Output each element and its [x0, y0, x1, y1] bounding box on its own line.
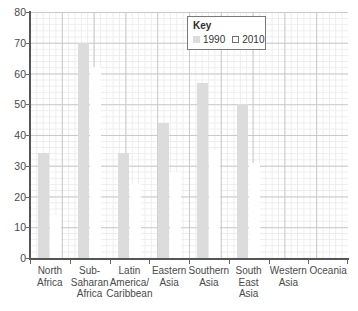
y-axis-tick-mark [26, 104, 30, 105]
x-axis-tick-mark [308, 259, 309, 264]
y-axis-tick-label: 10 [4, 222, 26, 232]
legend: Key 19902010 [187, 16, 266, 50]
x-axis-tick-mark [269, 259, 270, 264]
legend-entry: 1990 [193, 34, 225, 45]
bar-1990 [78, 43, 89, 258]
bar-1990 [197, 83, 208, 258]
bar-group [70, 12, 110, 258]
y-axis-tick-mark [26, 43, 30, 44]
bar-1990 [158, 123, 169, 258]
bar-2010 [50, 215, 61, 258]
y-axis-tick-mark [26, 74, 30, 75]
y-axis-tick-label: 70 [4, 38, 26, 48]
y-axis-tick-mark [26, 258, 30, 259]
y-axis-tick-mark [26, 12, 30, 13]
x-axis-tick-mark [30, 259, 31, 264]
bar-1990 [237, 104, 248, 258]
y-axis-tick-mark [26, 197, 30, 198]
y-axis-tick-label: 60 [4, 69, 26, 79]
legend-entry: 2010 [232, 34, 264, 45]
x-axis-tick-mark [229, 259, 230, 264]
x-axis-tick-mark [110, 259, 111, 264]
bar-group [110, 12, 150, 258]
x-axis-labels: North AfricaSub- Saharan AfricaLatin Ame… [30, 265, 348, 311]
legend-title: Key [193, 20, 260, 31]
legend-label: 1990 [203, 34, 225, 45]
x-axis-ticks [30, 259, 348, 264]
legend-entries: 19902010 [193, 34, 260, 45]
y-axis-tick-label: 50 [4, 99, 26, 109]
y-axis-tick-label: 0 [4, 253, 26, 263]
x-axis-tick-mark [149, 259, 150, 264]
bar-chart: 80706050403020100 North AfricaSub- Sahar… [0, 0, 358, 311]
bar-group [269, 12, 309, 258]
y-axis-tick-label: 20 [4, 192, 26, 202]
bar-group [30, 12, 70, 258]
bar-2010 [209, 150, 220, 258]
bar-2010 [90, 67, 101, 258]
legend-swatch-2010 [232, 36, 239, 43]
x-axis-tick-mark [347, 259, 348, 264]
legend-label: 2010 [242, 34, 264, 45]
bar-group [308, 12, 348, 258]
x-axis-tick-mark [189, 259, 190, 264]
bar-2010 [170, 172, 181, 258]
y-axis: 80706050403020100 [0, 0, 26, 311]
legend-swatch-1990 [193, 36, 200, 43]
y-axis-tick-mark [26, 135, 30, 136]
y-axis-tick-label: 80 [4, 7, 26, 17]
y-axis-tick-mark [26, 227, 30, 228]
bar-2010 [249, 163, 260, 258]
bar-2010 [130, 184, 141, 258]
bar-1990 [38, 153, 49, 258]
x-axis-category-label: Oceania [304, 265, 352, 277]
bar-group [149, 12, 189, 258]
y-axis-tick-mark [26, 166, 30, 167]
y-axis-tick-label: 40 [4, 130, 26, 140]
bar-1990 [118, 153, 129, 258]
x-axis-tick-mark [70, 259, 71, 264]
y-axis-tick-label: 30 [4, 161, 26, 171]
